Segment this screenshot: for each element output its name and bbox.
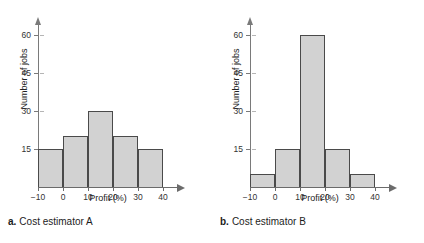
histogram-bar: [275, 149, 300, 187]
panel-cost-estimator-a: 15 30 45 60 −10 0: [0, 0, 212, 243]
x-axis-title-a: Profit (%): [38, 193, 178, 203]
histogram-bar: [350, 174, 375, 187]
y-axis-title-wrap-a: Number of jobs: [8, 30, 22, 140]
histogram-bar: [250, 174, 275, 187]
x-axis-title-b: Profit (%): [250, 193, 390, 203]
y-axis-title-wrap-b: Number of jobs: [220, 30, 234, 140]
plot-area-b: 15 30 45 60 −10 0: [250, 16, 410, 188]
panel-caption-marker-b: b.: [220, 216, 229, 227]
histogram-bar: [138, 149, 163, 187]
histogram-bar: [63, 136, 88, 187]
histogram-bar: [300, 35, 325, 187]
bars-b: [250, 16, 410, 188]
histogram-bar: [325, 149, 350, 187]
panel-caption-text-b: Cost estimator B: [232, 216, 306, 227]
bars-a: [38, 16, 198, 188]
y-tick-label: 15: [234, 145, 243, 154]
panel-caption-marker-a: a.: [8, 216, 16, 227]
panel-caption-a: a.Cost estimator A: [8, 216, 93, 227]
y-axis-title-a: Number of jobs: [19, 29, 29, 129]
histogram-bar: [88, 111, 113, 187]
plot-area-a: 15 30 45 60 −10 0: [38, 16, 198, 188]
y-tick-label: 15: [22, 145, 31, 154]
panel-cost-estimator-b: 15 30 45 60 −10 0: [212, 0, 424, 243]
histogram-bar: [38, 149, 63, 187]
histogram-bar: [113, 136, 138, 187]
y-axis-title-b: Number of jobs: [231, 29, 241, 129]
histogram-figure: 15 30 45 60 −10 0: [0, 0, 424, 243]
panel-caption-text-a: Cost estimator A: [19, 216, 92, 227]
panel-caption-b: b.Cost estimator B: [220, 216, 306, 227]
